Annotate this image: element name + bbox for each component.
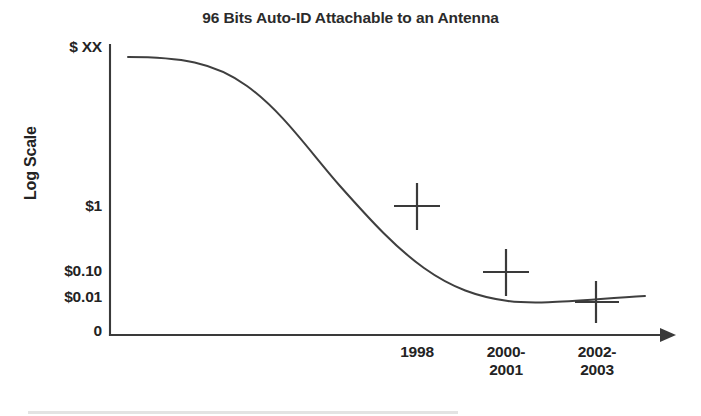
x-tick-label-1998-text: 1998 — [400, 343, 434, 360]
y-tick-label-zero: 0 — [14, 322, 102, 340]
y-tick-label-one-cent: $0.01 — [14, 288, 102, 306]
y-tick-label-top: $ XX — [14, 38, 102, 56]
x-axis-arrow-icon — [660, 328, 676, 342]
x-tick-label-2002-2003-line2: 2003 — [551, 361, 643, 379]
scan-artifact-edge — [28, 411, 458, 414]
x-tick-label-2002-2003: 2002- 2003 — [551, 343, 643, 379]
cost-decay-curve — [128, 57, 645, 302]
y-tick-label-ten-cents: $0.10 — [14, 262, 102, 280]
x-tick-label-2002-2003-line1: 2002- — [578, 343, 617, 360]
x-tick-label-2000-2001-line1: 2000- — [487, 343, 526, 360]
x-tick-label-1998: 1998 — [371, 343, 463, 361]
data-point-marker-1998 — [394, 183, 440, 230]
y-tick-label-one-dollar: $1 — [14, 197, 102, 215]
y-axis-title: Log Scale — [22, 126, 40, 200]
data-point-marker-2002-2003 — [575, 281, 619, 323]
x-tick-label-2000-2001: 2000- 2001 — [460, 343, 552, 379]
chart-figure: 96 Bits Auto-ID Attachable to an Antenna… — [0, 0, 701, 416]
data-point-marker-2000-2001 — [483, 249, 529, 296]
x-tick-label-2000-2001-line2: 2001 — [460, 361, 552, 379]
